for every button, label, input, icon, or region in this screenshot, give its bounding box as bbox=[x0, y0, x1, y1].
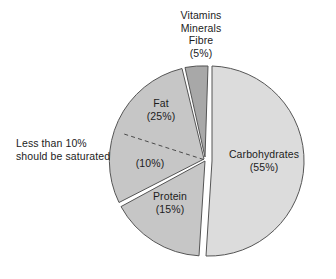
slice-label-protein: Protein (15%) bbox=[130, 190, 210, 215]
annotation-saturated-fat-value: (10%) bbox=[113, 157, 187, 170]
slice-label-vitamins-minerals-fibre: Vitamins Minerals Fibre (5%) bbox=[152, 9, 250, 59]
annotation-saturated-fat-note: Less than 10% should be saturated bbox=[16, 137, 128, 162]
slice-label-carbohydrates: Carbohydrates (55%) bbox=[212, 148, 316, 173]
pie-chart-figure: Vitamins Minerals Fibre (5%) Fat (25%) L… bbox=[0, 0, 336, 279]
slice-label-fat: Fat (25%) bbox=[125, 97, 197, 122]
